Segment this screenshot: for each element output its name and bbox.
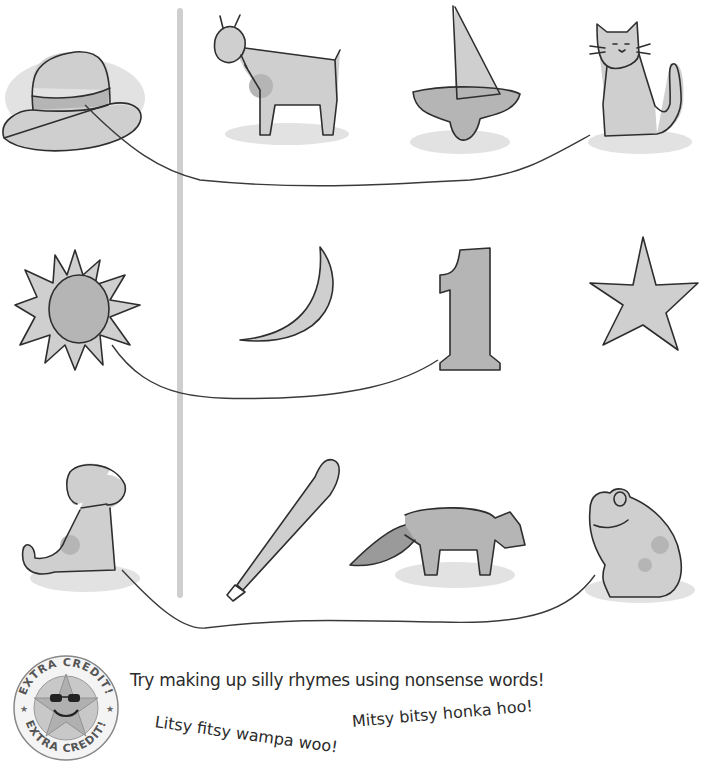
rhyme-example-1: Litsy fitsy wampa woo! <box>154 712 339 756</box>
rhyme-example-2: Mitsy bitsy honka hoo! <box>351 696 533 731</box>
match-line-hat-cat <box>85 105 590 186</box>
svg-text:★: ★ <box>106 704 114 714</box>
extra-credit-prompt: Try making up silly rhymes using nonsens… <box>130 670 544 690</box>
match-line-sun-one <box>112 345 438 399</box>
svg-text:★: ★ <box>20 704 28 714</box>
match-line-dog-frog <box>122 570 595 628</box>
match-lines <box>0 0 711 640</box>
extra-credit-badge: EXTRA CREDIT! EXTRA CREDIT! ★ ★ <box>10 652 122 760</box>
